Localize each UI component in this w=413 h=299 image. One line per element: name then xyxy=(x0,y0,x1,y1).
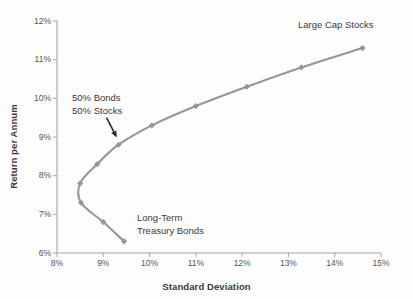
annotation-balanced-line2: 50% Stocks xyxy=(72,105,122,118)
y-axis-title: Return per Annum xyxy=(8,82,19,212)
y-tick-label: 9% xyxy=(21,132,51,142)
x-tick-label: 8% xyxy=(40,258,74,268)
y-tick-label: 11% xyxy=(21,54,51,64)
annotation-balanced-line1: 50% Bonds xyxy=(72,92,122,105)
y-tick-label: 7% xyxy=(21,209,51,219)
annotation-bonds-line1: Long-Term xyxy=(137,212,204,225)
annotation-arrow xyxy=(107,118,117,138)
annotation-bonds-line2: Treasury Bonds xyxy=(137,225,204,238)
data-point-markers xyxy=(77,45,366,245)
annotation-large-cap-stocks: Large Cap Stocks xyxy=(298,19,374,32)
axis-lines xyxy=(57,21,381,253)
x-tick-label: 12% xyxy=(225,258,259,268)
annotation-long-term-treasury-bonds: Long-Term Treasury Bonds xyxy=(137,212,204,237)
x-tick-label: 11% xyxy=(179,258,213,268)
x-axis-title: Standard Deviation xyxy=(0,281,413,292)
y-tick-label: 12% xyxy=(21,16,51,26)
x-tick-label: 10% xyxy=(133,258,167,268)
plot-area xyxy=(0,0,413,299)
x-tick-label: 14% xyxy=(318,258,352,268)
y-tick-label: 8% xyxy=(21,170,51,180)
x-tick-label: 15% xyxy=(364,258,398,268)
x-tick-label: 13% xyxy=(271,258,305,268)
annotation-balanced-portfolio: 50% Bonds 50% Stocks xyxy=(72,92,122,117)
x-tick-label: 9% xyxy=(86,258,120,268)
y-tick-label: 6% xyxy=(21,248,51,258)
efficient-frontier-chart: Standard Deviation Return per Annum 8%9%… xyxy=(0,0,413,299)
y-tick-label: 10% xyxy=(21,93,51,103)
